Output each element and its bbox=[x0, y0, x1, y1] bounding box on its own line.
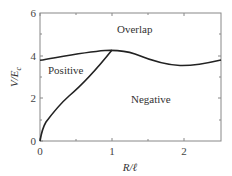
x-tick-label-0: 0 bbox=[37, 145, 43, 157]
y-axis-label-sub: c bbox=[14, 67, 23, 71]
region-label-negative: Negative bbox=[131, 93, 171, 105]
y-tick-label-0: 0 bbox=[31, 135, 37, 147]
y-tick-label-6: 6 bbox=[31, 7, 37, 19]
svg-text:V/Ec: V/Ec bbox=[8, 67, 23, 88]
y-axis-label-main: V/E bbox=[8, 70, 20, 87]
x-tick-label-1: 1 bbox=[109, 145, 115, 157]
phase-diagram-chart: 0 1 2 0 2 4 6 R/ℓ V/Ec Overlap Positive … bbox=[0, 0, 232, 176]
x-ticks bbox=[40, 13, 184, 141]
y-tick-label-2: 2 bbox=[31, 92, 37, 104]
x-axis-label: R/ℓ bbox=[122, 161, 138, 173]
region-label-overlap: Overlap bbox=[117, 23, 153, 35]
y-tick-label-4: 4 bbox=[31, 50, 37, 62]
x-tick-label-2: 2 bbox=[181, 145, 187, 157]
region-label-positive: Positive bbox=[48, 64, 84, 76]
y-axis-label: V/Ec bbox=[8, 67, 23, 88]
y-ticks bbox=[40, 34, 221, 141]
